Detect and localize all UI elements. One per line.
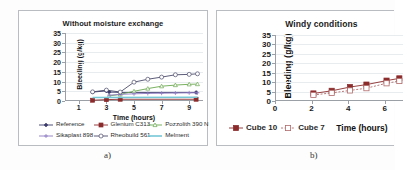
chart-title-a: Without moisture exchange (19, 19, 207, 28)
x-tick-label: 0 (273, 104, 277, 113)
y-tick-label: 10 (53, 78, 61, 85)
y-tick-label: 5 (267, 87, 271, 96)
y-tick (62, 101, 65, 102)
legend-item-label: Cube 10 (246, 123, 277, 132)
chart-title-b: Windy conditions (241, 19, 402, 29)
data-point (384, 81, 389, 86)
series-layer (65, 33, 203, 101)
data-point (146, 77, 150, 81)
legend-item[interactable]: Melment (148, 130, 203, 141)
data-point (160, 75, 164, 79)
y-tick-label: 20 (53, 59, 61, 66)
data-point (104, 88, 108, 92)
legend-marker-icon (148, 132, 162, 140)
legend-item-label: Sikaplast 898 (56, 132, 93, 138)
legend-marker-icon (39, 121, 53, 129)
data-point (187, 91, 191, 95)
y-tick-label: 35 (262, 31, 271, 40)
y-tick-label: 30 (262, 40, 271, 49)
data-point (173, 73, 177, 77)
legend-item[interactable]: Rheobuild 561 (94, 130, 149, 141)
y-tick-label: 15 (262, 68, 271, 77)
legend-marker-icon (39, 132, 53, 140)
chart-panel-a: Without moisture exchange Bleeding (g/kg… (18, 10, 208, 146)
y-tick-label: 10 (262, 78, 271, 87)
legend-item-label: Glenium C313 (111, 121, 151, 127)
y-tick-label: 0 (267, 97, 271, 106)
legend-item-label: Reference (56, 121, 85, 127)
data-point (160, 84, 164, 88)
data-point (146, 87, 150, 91)
data-point (91, 98, 95, 102)
y-tick-label: 20 (262, 59, 271, 68)
legend-item[interactable]: Cube 7 (281, 123, 325, 132)
legend-marker-icon (94, 121, 108, 129)
legend-marker-icon (148, 121, 162, 129)
y-tick-label: 25 (53, 49, 61, 56)
y-tick-label: 15 (53, 68, 61, 75)
chart-panel-b: Windy conditions Bleeding (g/kg) Time (h… (216, 10, 394, 146)
legend-item[interactable]: Pozzolith 390 N (148, 119, 203, 130)
subfigure-caption-a: a) (104, 150, 111, 160)
legend-item[interactable]: Glenium C313 (94, 119, 149, 130)
y-tick-label: 0 (57, 98, 61, 105)
y-tick-label: 25 (262, 49, 271, 58)
data-point (347, 88, 352, 93)
legend-item-label: Rheobuild 561 (111, 132, 151, 138)
x-tick-label: 1 (77, 104, 81, 111)
data-point (195, 72, 199, 76)
legend-item-label: Cube 7 (298, 123, 325, 132)
legend-b: Cube 10Cube 7 (229, 123, 329, 132)
legend-marker-icon (94, 132, 108, 140)
data-point (160, 91, 164, 95)
legend-marker-icon (229, 124, 243, 132)
x-tick-label: 6 (382, 104, 386, 113)
plot-area-a: Bleeding (g/kg) Time (hours) 05101520253… (65, 33, 203, 101)
x-tick-label: 2 (309, 104, 313, 113)
y-tick-label: 35 (53, 30, 61, 37)
x-tick-label: 5 (132, 104, 136, 111)
data-point (187, 72, 191, 76)
data-point (173, 91, 177, 95)
y-tick-label: 5 (57, 88, 61, 95)
data-point (118, 90, 122, 94)
data-point (329, 90, 334, 95)
x-tick-label: 7 (160, 104, 164, 111)
legend-item[interactable]: Sikaplast 898 (39, 130, 94, 141)
data-point (173, 83, 177, 87)
plot-area-b: Bleeding (g/kg) Time (hours) 05101520253… (275, 35, 403, 101)
x-tick-label: 3 (104, 104, 108, 111)
data-point (132, 80, 136, 84)
x-tick-label: 9 (187, 104, 191, 111)
data-point (364, 86, 369, 91)
x-tick-label: 4 (346, 104, 350, 113)
subfigure-caption-b: b) (310, 150, 318, 160)
y-tick-label: 30 (53, 39, 61, 46)
legend-item-label: Melment (165, 132, 189, 138)
data-point (195, 82, 199, 86)
legend-item-label: Pozzolith 390 N (165, 121, 208, 127)
legend-a: ReferenceGlenium C313Pozzolith 390 NSika… (39, 119, 203, 141)
data-point (311, 92, 316, 97)
data-point (91, 90, 95, 94)
series-line (109, 93, 197, 95)
legend-marker-icon (281, 124, 295, 132)
legend-item[interactable]: Cube 10 (229, 123, 277, 132)
data-point (187, 82, 191, 86)
data-point (397, 78, 402, 83)
series-layer (275, 35, 403, 101)
legend-item[interactable]: Reference (39, 119, 94, 130)
